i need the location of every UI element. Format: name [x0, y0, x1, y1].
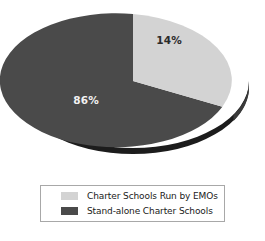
pie-chart-svg: 14% 86%: [0, 0, 265, 170]
legend-item-charter-schools-run-by-emos[interactable]: Charter Schools Run by EMOs: [41, 189, 224, 204]
legend-swatch-dark-icon: [61, 207, 78, 215]
pie-top-face: [0, 13, 232, 147]
legend-swatch-light-icon: [61, 192, 78, 200]
pie-label-charter-schools-run-by-emos: 14%: [156, 34, 182, 46]
chart-legend: Charter Schools Run by EMOs Stand-alone …: [40, 185, 225, 222]
pie-chart-plot-area: 14% 86%: [0, 0, 265, 170]
legend-item-stand-alone-charter-schools[interactable]: Stand-alone Charter Schools: [41, 204, 224, 219]
pie-label-stand-alone-charter-schools: 86%: [73, 94, 99, 106]
legend-label-stand-alone-charter-schools: Stand-alone Charter Schools: [87, 206, 213, 216]
pie-depth-dark-slice-right: [234, 81, 250, 121]
pie-chart-figure: 14% 86% Charter Schools Run by EMOs Stan…: [0, 0, 265, 241]
legend-label-charter-schools-run-by-emos: Charter Schools Run by EMOs: [87, 191, 218, 201]
